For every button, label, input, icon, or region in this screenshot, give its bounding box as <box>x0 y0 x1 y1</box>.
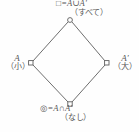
node-bottom-symbol: ◎=A∩A′ <box>40 104 91 113</box>
edge-top-right <box>72 22 105 61</box>
node-left-annotation: （小） <box>6 63 28 71</box>
edge-right-bottom <box>72 65 105 102</box>
node-label-bottom: ◎=A∩A′ （なし） <box>40 104 91 122</box>
lattice-edges <box>33 22 105 102</box>
node-right-annotation: （大） <box>113 63 137 71</box>
node-top-annotation: （すべて） <box>70 9 108 17</box>
node-bottom-annotation: （なし） <box>60 114 91 122</box>
node-top-symbol: □=A∪A′ <box>56 0 108 8</box>
edge-top-left <box>33 22 68 61</box>
lattice-nodes <box>29 18 109 107</box>
edge-left-bottom <box>33 65 68 102</box>
node-right-marker <box>105 61 109 65</box>
node-top-marker <box>68 18 73 23</box>
lattice-diagram-figure: □=A∪A′ （すべて） A （小） A′ （大） ◎=A∩A′ （なし） <box>0 0 139 132</box>
node-label-top: □=A∪A′ （すべて） <box>56 0 108 17</box>
node-left-marker <box>29 61 33 65</box>
node-label-left: A （小） <box>6 54 28 72</box>
node-label-right: A′ （大） <box>113 54 137 72</box>
